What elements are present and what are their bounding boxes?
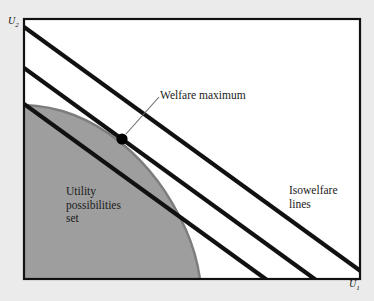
figure-container: U2 U1 Welfare maximum Isowelfare lines U… bbox=[0, 0, 374, 301]
welfare-maximum-point bbox=[116, 133, 127, 144]
isowelfare-lines-label: Isowelfare lines bbox=[289, 184, 338, 211]
x-axis-label: U1 bbox=[349, 279, 360, 292]
utility-possibilities-set-label: Utility possibilities set bbox=[66, 185, 121, 226]
y-axis-label: U2 bbox=[8, 16, 19, 29]
y-axis-label-subscript: 2 bbox=[15, 21, 19, 29]
x-axis-label-subscript: 1 bbox=[356, 284, 360, 292]
welfare-maximum-diagram bbox=[0, 0, 374, 301]
welfare-maximum-label: Welfare maximum bbox=[160, 89, 246, 103]
